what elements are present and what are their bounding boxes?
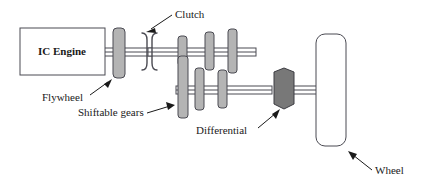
gear-upper-2 — [205, 32, 214, 70]
gear-lower-1 — [178, 56, 188, 118]
shiftable-gears-annotation: Shiftable gears — [78, 102, 175, 118]
shiftable-gears-label: Shiftable gears — [78, 106, 144, 118]
gear-upper-3 — [228, 29, 237, 73]
flywheel-label: Flywheel — [42, 91, 83, 103]
wheel-label: Wheel — [375, 164, 404, 176]
clutch-label: Clutch — [175, 8, 205, 20]
engine-output-shaft — [104, 48, 152, 56]
differential-annotation: Differential — [196, 109, 280, 136]
ic-engine-label: IC Engine — [38, 45, 86, 57]
powertrain-diagram: IC Engine — [0, 0, 422, 183]
upper-gear-shaft — [148, 48, 256, 56]
clutch-annotation: Clutch — [146, 8, 205, 33]
diagram-canvas: IC Engine — [0, 0, 422, 183]
gear-lower-2 — [195, 68, 204, 110]
wheel-annotation: Wheel — [348, 151, 404, 176]
differential-label: Differential — [196, 124, 247, 136]
ic-engine-block: IC Engine — [20, 28, 105, 75]
flywheel-disc — [113, 28, 125, 78]
differential-housing — [274, 68, 294, 109]
flywheel-annotation: Flywheel — [42, 79, 112, 103]
gear-lower-3 — [218, 70, 227, 108]
wheel-outline — [316, 34, 346, 146]
